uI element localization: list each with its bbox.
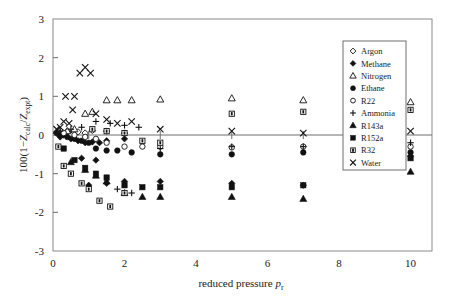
data-point: [104, 129, 109, 134]
legend-marker-r32: [351, 148, 356, 153]
data-point: [301, 109, 306, 114]
data-point: [97, 198, 102, 203]
legend-marker-r22: [351, 98, 356, 103]
x-tick-label: 0: [50, 257, 56, 269]
data-point: [140, 138, 145, 143]
data-point: [93, 171, 98, 176]
data-point: [93, 136, 98, 141]
data-point: [82, 165, 87, 170]
data-point: [72, 132, 77, 137]
data-point: [104, 140, 109, 145]
data-point: [72, 157, 77, 162]
data-point: [140, 185, 145, 190]
data-point: [157, 152, 163, 158]
scatter-plot: 0246810 -3-2-10123 ArgonMethaneNitrogenE…: [0, 0, 450, 304]
data-point: [122, 130, 127, 135]
x-tick-label: 2: [122, 257, 128, 269]
chart-legend: ArgonMethaneNitrogenEthaneR22AmmoniaR143…: [343, 41, 406, 170]
x-axis-title-subscript: r: [281, 283, 284, 292]
legend-label-ethane: Ethane: [361, 83, 385, 93]
legend-label-r143a: R143a: [361, 121, 383, 131]
legend-label-methane: Methane: [361, 59, 391, 69]
y-axis-title-sub-expt: expt: [23, 100, 32, 114]
data-point: [68, 171, 73, 176]
x-tick-label: 4: [193, 257, 199, 269]
data-point: [408, 150, 414, 156]
data-point: [301, 183, 306, 188]
y-axis-title-suffix: ): [17, 97, 30, 101]
data-point: [104, 175, 109, 180]
data-point: [93, 146, 99, 152]
legend-label-ammonia: Ammonia: [361, 108, 395, 118]
data-point: [229, 152, 235, 158]
x-tick-label: 6: [265, 257, 271, 269]
y-axis-title-sub-calc: calc: [23, 122, 32, 135]
data-point: [122, 190, 127, 195]
legend-marker-ethane: [351, 86, 356, 91]
data-point: [90, 127, 95, 132]
y-axis-title-prefix: 100(1−: [17, 141, 30, 173]
data-point: [61, 146, 66, 151]
y-tick-label: 0: [39, 129, 45, 141]
data-point: [158, 140, 163, 145]
data-point: [122, 183, 127, 188]
legend-marker-r152a: [351, 135, 356, 140]
x-axis-title-text: reduced pressure: [198, 277, 272, 289]
data-point: [115, 148, 121, 154]
data-point: [300, 150, 306, 156]
y-tick-label: -3: [35, 245, 45, 257]
chart-figure: 0246810 -3-2-10123 ArgonMethaneNitrogenE…: [0, 0, 450, 304]
data-point: [140, 144, 145, 149]
data-point: [129, 150, 135, 156]
data-point: [86, 140, 92, 146]
data-point: [82, 134, 87, 139]
data-point: [408, 156, 413, 161]
data-point: [56, 144, 61, 149]
data-point: [61, 163, 66, 168]
legend-label-argon: Argon: [361, 46, 383, 56]
legend-label-r22: R22: [361, 96, 375, 106]
y-tick-label: 1: [39, 90, 45, 102]
y-tick-label: -2: [35, 206, 44, 218]
y-tick-label: 3: [39, 13, 45, 25]
legend-label-r32: R32: [361, 145, 375, 155]
data-point: [229, 185, 234, 190]
legend-label-nitrogen: Nitrogen: [361, 71, 392, 81]
data-point: [104, 148, 110, 154]
data-point: [158, 185, 163, 190]
x-tick-label: 10: [405, 257, 417, 269]
y-tick-label: -1: [35, 168, 44, 180]
data-point: [122, 144, 127, 149]
legend-label-r152a: R152a: [361, 133, 383, 143]
legend-label-water: Water: [361, 158, 381, 168]
data-point: [229, 111, 234, 116]
data-point: [79, 181, 84, 186]
data-point: [408, 107, 413, 112]
x-tick-label: 8: [336, 257, 342, 269]
data-point: [108, 204, 113, 209]
y-tick-label: 2: [39, 52, 45, 64]
data-point: [86, 187, 91, 192]
